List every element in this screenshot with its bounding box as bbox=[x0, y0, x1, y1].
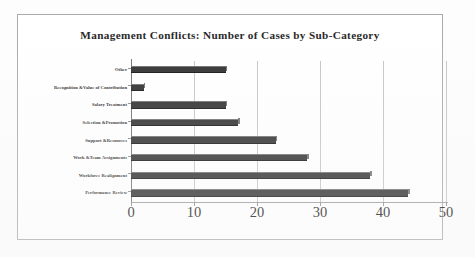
bar-row: Workforce Realignment bbox=[131, 167, 446, 185]
bar[interactable] bbox=[131, 66, 226, 73]
bar[interactable] bbox=[131, 136, 276, 143]
bar-row: Recognition &Value of Contribution bbox=[131, 79, 446, 97]
bar-row: Other bbox=[131, 61, 446, 79]
category-label: Performance Review bbox=[85, 190, 127, 195]
x-tick-label-40: 40 bbox=[376, 205, 391, 220]
bar-row: Salary Treatment bbox=[131, 96, 446, 114]
x-tick-label-0: 0 bbox=[127, 205, 134, 220]
x-axis-tick bbox=[383, 202, 384, 206]
bar[interactable] bbox=[131, 172, 370, 179]
bar[interactable] bbox=[131, 101, 226, 108]
x-axis-tick bbox=[257, 202, 258, 206]
chart-title: Management Conflicts: Number of Cases by… bbox=[18, 29, 442, 41]
category-label: Recognition &Value of Contribution bbox=[54, 85, 127, 90]
category-label: Selection &Promotion bbox=[83, 120, 127, 125]
gridline-50 bbox=[446, 61, 447, 202]
x-axis-tick bbox=[131, 202, 132, 206]
bar[interactable] bbox=[131, 189, 408, 196]
category-label: Other bbox=[115, 67, 127, 72]
x-tick-label-10: 10 bbox=[187, 205, 202, 220]
bar[interactable] bbox=[131, 119, 238, 126]
bar-row: Selection &Promotion bbox=[131, 114, 446, 132]
x-axis-line bbox=[131, 202, 448, 203]
plot-area: OtherRecognition &Value of ContributionS… bbox=[131, 61, 446, 202]
category-label: Work &Team Assignments bbox=[73, 155, 127, 160]
bar[interactable] bbox=[131, 84, 144, 91]
category-label: Salary Treatment bbox=[92, 102, 127, 107]
x-axis-tick bbox=[194, 202, 195, 206]
bar-row: Support &Resources bbox=[131, 131, 446, 149]
chart-page: Management Conflicts: Number of Cases by… bbox=[0, 0, 475, 257]
bar-row: Work &Team Assignments bbox=[131, 149, 446, 167]
x-axis-tick bbox=[446, 202, 447, 206]
bar[interactable] bbox=[131, 154, 307, 161]
category-label: Support &Resources bbox=[85, 138, 127, 143]
x-axis-tick bbox=[320, 202, 321, 206]
x-tick-label-50: 50 bbox=[439, 205, 454, 220]
category-label: Workforce Realignment bbox=[79, 173, 127, 178]
x-tick-label-20: 20 bbox=[250, 205, 265, 220]
bar-row: Performance Review bbox=[131, 184, 446, 202]
x-tick-label-30: 30 bbox=[313, 205, 328, 220]
chart-frame: Management Conflicts: Number of Cases by… bbox=[17, 14, 443, 240]
